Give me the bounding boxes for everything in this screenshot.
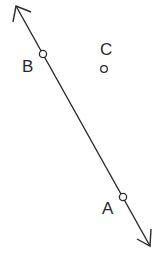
label-b: B xyxy=(22,57,33,76)
arrowhead-top-icon xyxy=(13,6,31,22)
label-a: A xyxy=(102,199,114,218)
label-c: C xyxy=(100,40,112,59)
point-a xyxy=(119,193,126,200)
line-ba xyxy=(16,6,150,246)
point-c xyxy=(101,66,108,73)
point-b xyxy=(39,50,46,57)
geometry-diagram: B C A xyxy=(0,0,157,263)
